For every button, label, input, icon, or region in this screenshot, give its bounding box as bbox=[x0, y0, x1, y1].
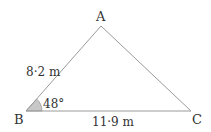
angle-b-marker bbox=[26, 99, 42, 111]
vertex-a-label: A bbox=[95, 9, 106, 24]
vertex-b-label: B bbox=[14, 112, 24, 127]
side-bc-label: 11·9 m bbox=[92, 115, 135, 129]
triangle-diagram: A B C 8·2 m 11·9 m 48° bbox=[0, 0, 211, 132]
side-ab-label: 8·2 m bbox=[26, 65, 61, 79]
angle-b-label: 48° bbox=[43, 97, 64, 111]
vertex-c-label: C bbox=[192, 112, 202, 127]
